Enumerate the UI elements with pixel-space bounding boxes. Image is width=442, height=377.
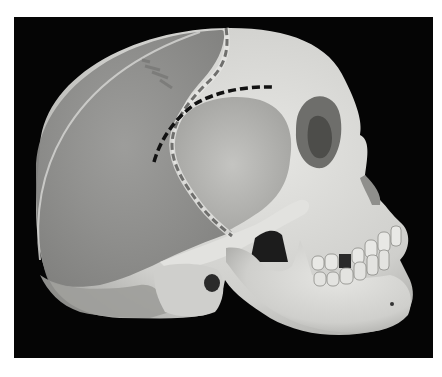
ear-canal [204, 274, 220, 292]
mental-foramen [390, 302, 394, 306]
tooth-gap [339, 254, 351, 268]
photo-frame [14, 17, 433, 358]
skull-illustration [14, 17, 433, 358]
